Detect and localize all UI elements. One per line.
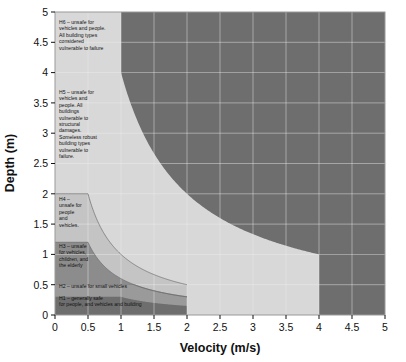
chart-canvas: 00.511.522.533.544.55 00.511.522.533.544… xyxy=(0,0,406,362)
y-tick-label: 2.5 xyxy=(33,157,48,169)
x-tick-label: 0.5 xyxy=(81,321,96,333)
x-tick-label: 5 xyxy=(382,321,388,333)
x-tick-label: 4 xyxy=(316,321,322,333)
flood-hazard-chart: 00.511.522.533.544.55 00.511.522.533.544… xyxy=(0,0,406,362)
band-label-h4-line: unsafe for xyxy=(59,202,82,208)
y-tick-label: 0 xyxy=(42,309,48,321)
x-tick-label: 0 xyxy=(52,321,58,333)
band-label-h4-line: H4 – xyxy=(59,196,70,202)
x-tick-label: 1 xyxy=(118,321,124,333)
x-tick-label: 2.5 xyxy=(213,321,228,333)
band-label-h4-line: and xyxy=(59,215,68,221)
y-tick-label: 1.5 xyxy=(33,218,48,230)
y-tick-label: 5 xyxy=(42,6,48,18)
band-label-h2-line: H2 – unsafe for small vehicles xyxy=(59,283,127,289)
band-label-h5-line: buildings xyxy=(59,108,80,114)
band-label-h5-line: H5 – unsafe for xyxy=(59,89,94,95)
y-tick-label: 0.5 xyxy=(33,279,48,291)
y-tick-label: 1 xyxy=(42,248,48,260)
band-label-h5-line: people. All xyxy=(59,102,83,108)
band-label-h5-line: damages. xyxy=(59,127,81,133)
band-label-h5-line: failure. xyxy=(59,153,74,159)
band-label-h5-line: building types xyxy=(59,140,91,146)
band-label-h5-line: vulnerable to xyxy=(59,115,88,121)
y-axis-ticks: 00.511.522.533.544.55 xyxy=(33,6,55,321)
y-axis-title: Depth (m) xyxy=(3,134,17,192)
y-tick-label: 2 xyxy=(42,188,48,200)
y-tick-label: 3 xyxy=(42,127,48,139)
y-tick-label: 4.5 xyxy=(33,36,48,48)
y-tick-label: 3.5 xyxy=(33,97,48,109)
x-tick-label: 3 xyxy=(250,321,256,333)
x-axis-ticks: 00.511.522.533.544.55 xyxy=(52,315,388,333)
band-label-h6-line: All building types xyxy=(59,32,98,38)
band-label-h5-line: Someless robust xyxy=(59,134,98,140)
band-label-h3-line: children, and xyxy=(59,256,88,262)
band-label-h6-line: vehicles and people. xyxy=(59,25,105,31)
band-label-h6-line: considered xyxy=(59,38,84,44)
band-label-h6-line: vulnerable to failure xyxy=(59,45,104,51)
band-label-h5-line: vehicles and xyxy=(59,95,87,101)
band-label-h2: H2 – unsafe for small vehicles xyxy=(59,283,127,289)
band-label-h3-line: for vehicles, xyxy=(59,249,86,255)
band-label-h4-line: people xyxy=(59,209,74,215)
band-label-h3-line: H3 – unsafe xyxy=(59,243,87,249)
x-tick-label: 1.5 xyxy=(147,321,162,333)
band-label-h6-line: H6 – unsafe for xyxy=(59,19,94,25)
x-axis-title: Velocity (m/s) xyxy=(180,341,261,355)
x-tick-label: 2 xyxy=(184,321,190,333)
x-tick-label: 4.5 xyxy=(345,321,360,333)
band-label-h1-line: H1 – generally safe xyxy=(59,295,103,301)
band-label-h5-line: vulnerable to xyxy=(59,147,88,153)
band-label-h5-line: structural xyxy=(59,121,80,127)
y-tick-label: 4 xyxy=(42,66,48,78)
band-label-h1-line: for people, and vehicles and building xyxy=(59,301,142,307)
x-tick-label: 3.5 xyxy=(279,321,294,333)
band-label-h4-line: vehicles. xyxy=(59,222,79,228)
band-label-h3-line: the elderly xyxy=(59,262,83,268)
